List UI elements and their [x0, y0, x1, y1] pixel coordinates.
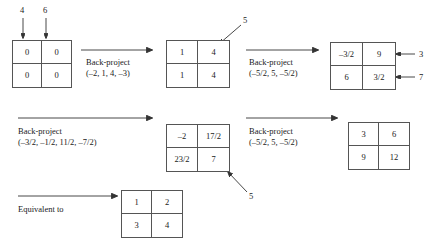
- operation-title: Back-project: [86, 57, 130, 68]
- operation-title: Back-project: [18, 126, 97, 137]
- matrix-cell: –2: [167, 125, 198, 148]
- annotation-five-upper: 5: [243, 16, 247, 25]
- input-label-top-right: 6: [43, 6, 47, 15]
- operation-title: Back-project: [249, 57, 298, 68]
- operation-params: (–3/2, –1/2, 11/2, –7/2): [18, 137, 97, 148]
- operation-back-project-3: Back-project (–3/2, –1/2, 11/2, –7/2): [18, 126, 97, 148]
- matrix-cell: 1: [122, 191, 152, 214]
- matrix-cell: 9: [349, 146, 379, 169]
- figure-canvas: 4 6 3 7 5 5 0 0 0 0 Back-project (–2, 1,…: [0, 0, 432, 247]
- matrix-grid-zero: 0 0 0 0: [12, 40, 72, 88]
- matrix-cell: 12: [379, 146, 409, 169]
- matrix-cell: 23/2: [167, 148, 198, 171]
- operation-back-project-4: Back-project (–5/2, 5, –5/2): [249, 126, 298, 148]
- operation-equivalent-to: Equivalent to: [18, 204, 64, 215]
- matrix-grid-mixed: –2 17/2 23/2 7: [166, 124, 230, 172]
- matrix-grid-ones-fours: 1 4 1 4: [166, 40, 230, 88]
- matrix-cell: 0: [42, 64, 71, 87]
- matrix-cell: –3/2: [331, 43, 363, 66]
- operation-params: (–2, 1, 4, –3): [86, 68, 130, 79]
- matrix-cell: 17/2: [198, 125, 229, 148]
- matrix-cell: 4: [152, 214, 182, 237]
- input-label-top-left: 4: [20, 6, 24, 15]
- matrix-cell: 3: [349, 123, 379, 146]
- input-label-right-bottom: 7: [419, 73, 423, 82]
- matrix-cell: 0: [42, 41, 71, 64]
- matrix-cell: 1: [167, 64, 198, 87]
- operation-title: Back-project: [249, 126, 298, 137]
- matrix-cell: 4: [198, 41, 229, 64]
- matrix-cell: 1: [167, 41, 198, 64]
- operation-back-project-1: Back-project (–2, 1, 4, –3): [86, 57, 130, 79]
- operation-title: Equivalent to: [18, 204, 64, 215]
- matrix-cell: 7: [198, 148, 229, 171]
- matrix-cell: 0: [13, 64, 42, 87]
- matrix-cell: 3: [122, 214, 152, 237]
- operation-back-project-2: Back-project (–5/2, 5, –5/2): [249, 57, 298, 79]
- matrix-cell: 4: [198, 64, 229, 87]
- matrix-grid-halves: –3/2 9 6 3/2: [330, 42, 396, 90]
- annotation-five-lower: 5: [249, 192, 253, 201]
- input-label-right-top: 3: [419, 50, 423, 59]
- annot-arrow-five-lower: [228, 172, 247, 192]
- matrix-cell: 6: [379, 123, 409, 146]
- matrix-cell: 6: [331, 66, 363, 89]
- operation-params: (–5/2, 5, –5/2): [249, 68, 298, 79]
- matrix-cell: 9: [363, 43, 395, 66]
- matrix-grid-equivalent: 1 2 3 4: [121, 190, 183, 238]
- matrix-grid-result: 3 6 9 12: [348, 122, 410, 170]
- matrix-cell: 0: [13, 41, 42, 64]
- matrix-cell: 2: [152, 191, 182, 214]
- matrix-cell: 3/2: [363, 66, 395, 89]
- operation-params: (–5/2, 5, –5/2): [249, 137, 298, 148]
